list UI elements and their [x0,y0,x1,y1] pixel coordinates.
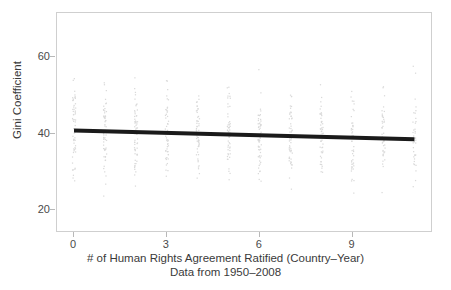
scatter-point [413,135,414,136]
scatter-point [166,95,167,96]
scatter-point [353,110,354,111]
scatter-point [321,112,322,113]
scatter-point [260,119,261,120]
scatter-point [134,147,135,148]
scatter-point [258,167,259,168]
scatter-point [137,121,138,122]
scatter-point [414,164,415,165]
scatter-point [413,156,414,157]
scatter-point [135,125,136,126]
scatter-point [228,122,229,123]
scatter-point [75,140,76,141]
scatter-point [260,157,261,158]
scatter-point [134,99,135,100]
scatter-point [72,118,73,119]
scatter-point [258,120,259,121]
scatter-point [135,92,136,93]
scatter-point [104,124,105,125]
scatter-point [322,123,323,124]
x-tick-label: 9 [337,238,367,250]
scatter-point [352,153,353,154]
scatter-point [227,129,228,130]
scatter-point [106,126,107,127]
scatter-point [73,175,74,176]
scatter-point [135,94,136,95]
scatter-point [382,163,383,164]
scatter-point [198,145,199,146]
scatter-point [260,110,261,111]
scatter-point [75,113,76,114]
scatter-point [74,147,75,148]
scatter-point [106,153,107,154]
scatter-point [136,123,137,124]
scatter-point [289,150,290,151]
scatter-point [227,159,228,160]
scatter-point [196,130,197,131]
scatter-point [382,114,383,115]
scatter-point [196,120,197,121]
scatter-point [137,143,138,144]
scatter-point [135,185,136,186]
scatter-point [166,159,167,160]
scatter-point [291,162,292,163]
scatter-point [167,163,168,164]
scatter-point [167,130,168,131]
scatter-point [291,112,292,113]
scatter-point [260,132,261,133]
scatter-point [228,131,229,132]
plot-canvas [57,13,433,233]
scatter-point [104,137,105,138]
scatter-point [260,152,261,153]
scatter-point [73,111,74,112]
scatter-point [322,172,323,173]
scatter-point [352,131,353,132]
scatter-point [351,141,352,142]
scatter-point [227,103,228,104]
scatter-point [230,123,231,124]
scatter-point [351,160,352,161]
scatter-point [289,140,290,141]
scatter-point [136,154,137,155]
scatter-point [228,145,229,146]
scatter-point [414,154,415,155]
scatter-point [104,125,105,126]
scatter-point [258,173,259,174]
scatter-point [198,125,199,126]
scatter-point [321,121,322,122]
scatter-point [290,148,291,149]
scatter-point [384,147,385,148]
scatter-point [320,84,321,85]
scatter-point [74,94,75,95]
scatter-point [137,127,138,128]
scatter-point [384,111,385,112]
scatter-point [198,165,199,166]
scatter-point [168,99,169,100]
scatter-point [353,168,354,169]
scatter-point [134,166,135,167]
scatter-point [382,87,383,88]
scatter-point [321,106,322,107]
scatter-point [258,127,259,128]
scatter-point [259,160,260,161]
scatter-point [352,179,353,180]
scatter-point [320,108,321,109]
scatter-point [321,113,322,114]
scatter-point [136,115,137,116]
scatter-point [75,119,76,120]
scatter-point [290,158,291,159]
scatter-point [258,156,259,157]
scatter-point [291,189,292,190]
regression-line [74,130,414,139]
scatter-point [412,132,413,133]
scatter-point [227,95,228,96]
scatter-point [351,180,352,181]
scatter-point [289,147,290,148]
scatter-point [135,160,136,161]
scatter-point [320,118,321,119]
scatter-point [103,141,104,142]
scatter-point [351,166,352,167]
scatter-point [290,128,291,129]
scatter-point [413,142,414,143]
scatter-point [73,150,74,151]
scatter-point [72,97,73,98]
